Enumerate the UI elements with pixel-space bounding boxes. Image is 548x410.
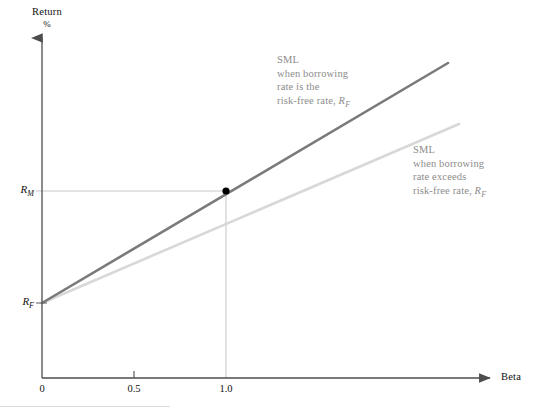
annotation-exceeds-line-3: rate exceeds: [413, 170, 486, 184]
annotation-riskfree-line-4-subscript: F: [345, 100, 350, 109]
annotation-riskfree-line-4-prefix: risk-free rate,: [277, 95, 339, 106]
y-axis-title-percent: %: [23, 19, 71, 29]
x-axis-title-beta: Beta: [501, 371, 521, 382]
x-tick-label-half: 0.5: [118, 383, 150, 394]
annotation-sml-borrow-exceeds: SML when borrowing rate exceeds risk-fre…: [413, 143, 486, 201]
chart-canvas: [0, 0, 548, 410]
annotation-riskfree-line-2: when borrowing: [277, 67, 350, 81]
footer-divider: [0, 406, 170, 407]
annotation-exceeds-line-4-prefix: risk-free rate,: [413, 185, 475, 196]
y-label-market-return: RM: [2, 183, 34, 198]
y-label-rm-subscript: M: [27, 189, 34, 198]
x-tick-label-one: 1.0: [210, 383, 242, 394]
annotation-exceeds-line-1: SML: [413, 143, 486, 157]
annotation-exceeds-line-4-subscript: F: [481, 190, 486, 199]
sml-line-borrow-riskfree: [42, 63, 448, 303]
annotation-exceeds-line-2: when borrowing: [413, 157, 486, 171]
y-axis-title-return: Return: [23, 6, 71, 17]
y-label-rf-subscript: F: [29, 301, 34, 310]
market-portfolio-point: [222, 187, 229, 194]
y-label-risk-free-rate: RF: [2, 295, 34, 310]
annotation-riskfree-line-4: risk-free rate, RF: [277, 94, 350, 112]
annotation-riskfree-line-3: rate is the: [277, 80, 350, 94]
sml-line-borrow-exceeds: [42, 124, 459, 303]
annotation-exceeds-line-4: risk-free rate, RF: [413, 184, 486, 202]
annotation-riskfree-line-1: SML: [277, 53, 350, 67]
annotation-sml-borrow-riskfree: SML when borrowing rate is the risk-free…: [277, 53, 350, 111]
sml-chart-figure: Return % Beta 0 0.5 1.0 RM RF SML when b…: [0, 0, 548, 410]
x-tick-label-zero: 0: [32, 383, 52, 394]
